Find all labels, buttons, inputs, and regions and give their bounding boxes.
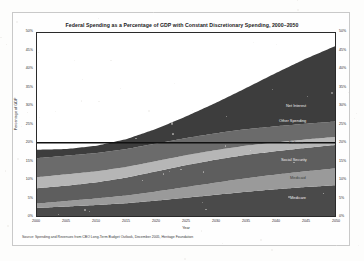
series-label-medicaid: Medicaid <box>290 176 306 180</box>
y-tick-left-10: 10% <box>17 178 33 182</box>
y-tick-left-5: 5% <box>17 197 33 201</box>
y-tick-left-25: 25% <box>17 123 33 127</box>
texture-speck <box>354 118 355 119</box>
texture-speck <box>172 133 174 135</box>
y-tick-left-20: 20% <box>17 141 33 145</box>
texture-speck <box>120 88 121 89</box>
y-tick-right-45: 45% <box>339 49 355 53</box>
plot-area <box>36 32 336 217</box>
texture-speck <box>6 44 7 45</box>
series-label-medicare: Medicare <box>290 196 306 200</box>
x-tick-2020: 2020 <box>144 220 168 224</box>
y-tick-left-35: 35% <box>17 86 33 90</box>
texture-speck <box>288 196 290 198</box>
x-tick-2025: 2025 <box>174 220 198 224</box>
texture-speck <box>297 9 299 11</box>
texture-speck <box>21 126 22 127</box>
source-note: Source: Spending and Revenues from CBO L… <box>22 236 193 240</box>
y-axis-title: Percentage of GDP <box>15 84 19 144</box>
stacked-area-plot <box>37 33 335 216</box>
y-tick-left-50: 50% <box>17 30 33 34</box>
x-tick-2035: 2035 <box>234 220 258 224</box>
x-tick-2040: 2040 <box>264 220 288 224</box>
y-tick-right-40: 40% <box>339 67 355 71</box>
texture-speck <box>205 209 206 210</box>
y-tick-right-10: 10% <box>339 178 355 182</box>
texture-speck <box>253 42 254 43</box>
texture-speck <box>74 60 75 61</box>
y-tick-left-40: 40% <box>17 67 33 71</box>
texture-speck <box>5 170 6 171</box>
y-tick-left-0: 0% <box>17 215 33 219</box>
texture-speck <box>27 112 28 113</box>
series-label-net-interest: Net Interest <box>286 104 306 108</box>
texture-speck <box>81 100 83 102</box>
texture-speck <box>29 48 31 50</box>
y-tick-left-30: 30% <box>17 104 33 108</box>
x-tick-2010: 2010 <box>84 220 108 224</box>
y-tick-left-15: 15% <box>17 160 33 164</box>
chart-title: Federal Spending as a Percentage of GDP … <box>24 22 340 28</box>
y-tick-right-30: 30% <box>339 104 355 108</box>
x-tick-2000: 2000 <box>24 220 48 224</box>
y-tick-right-0: 0% <box>339 215 355 219</box>
texture-speck <box>142 180 143 181</box>
texture-speck <box>271 249 273 251</box>
x-tick-2005: 2005 <box>54 220 78 224</box>
texture-speck <box>148 110 150 112</box>
texture-speck <box>0 37 1 38</box>
texture-speck <box>84 209 86 211</box>
x-tick-2015: 2015 <box>114 220 138 224</box>
texture-speck <box>358 245 359 246</box>
texture-speck <box>82 79 83 80</box>
texture-speck <box>38 52 39 53</box>
texture-speck <box>16 21 18 23</box>
texture-speck <box>276 44 277 45</box>
chart-figure: Federal Spending as a Percentage of GDP … <box>0 0 364 261</box>
series-label-defense: Defense <box>289 141 304 145</box>
y-tick-right-50: 50% <box>339 30 355 34</box>
y-tick-right-20: 20% <box>339 141 355 145</box>
y-tick-right-5: 5% <box>339 197 355 201</box>
y-tick-right-35: 35% <box>339 86 355 90</box>
y-tick-right-15: 15% <box>339 160 355 164</box>
x-tick-2045: 2045 <box>294 220 318 224</box>
x-tick-2030: 2030 <box>204 220 228 224</box>
texture-speck <box>222 243 223 244</box>
texture-speck <box>7 225 9 227</box>
texture-speck <box>297 0 298 1</box>
texture-speck <box>171 122 173 124</box>
y-tick-right-25: 25% <box>339 123 355 127</box>
x-axis-title: Year <box>36 227 336 231</box>
texture-speck <box>184 258 186 260</box>
texture-speck <box>98 101 99 102</box>
texture-speck <box>356 113 357 114</box>
series-label-other-spending: Other Spending <box>279 119 306 123</box>
texture-speck <box>260 239 262 241</box>
texture-speck <box>348 92 349 93</box>
x-tick-2050: 2050 <box>324 220 348 224</box>
